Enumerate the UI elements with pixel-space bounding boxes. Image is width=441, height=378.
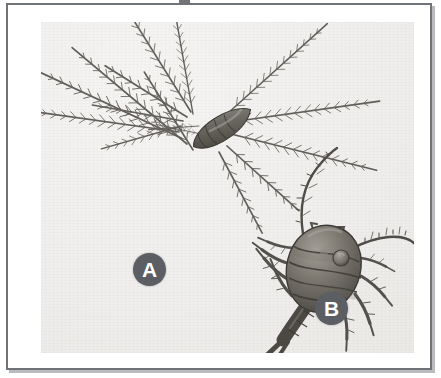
photograph-area: A B [41,22,414,353]
figure-canvas: A B [0,0,441,378]
specimen-label-a: A [133,253,166,286]
specimen-a-body [187,99,257,156]
cropped-glyph-remnant [179,0,190,3]
specimen-illustrations [41,22,414,353]
specimen-label-b: B [315,292,348,325]
figure-frame: A B [6,3,432,370]
specimen-a [41,22,380,236]
specimen-b-eye-spot [333,250,349,266]
